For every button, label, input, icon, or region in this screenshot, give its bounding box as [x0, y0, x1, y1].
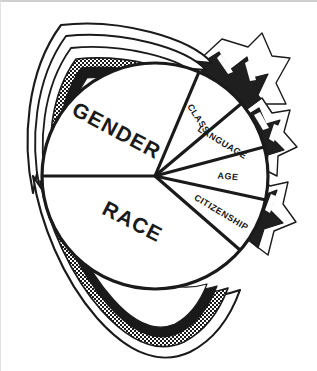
diagram-canvas: GENDER CLASS LANGUAGE AGE CITIZENSHIP RA… [0, 0, 317, 371]
segment-label-age: AGE [217, 170, 239, 182]
identity-wheel-figure: GENDER CLASS LANGUAGE AGE CITIZENSHIP RA… [0, 0, 317, 371]
